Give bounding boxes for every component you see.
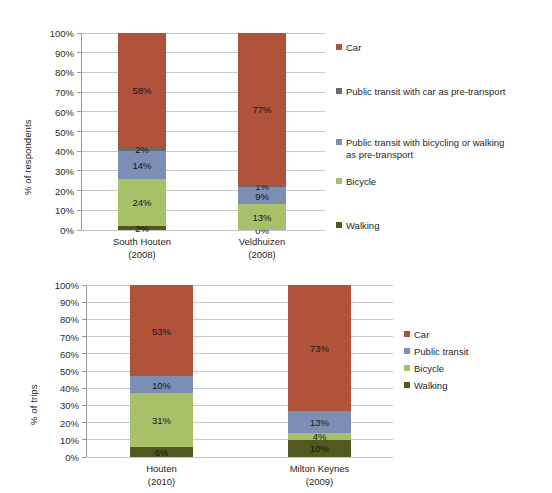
stacked-bar[interactable]: 10%4%13%73% — [288, 285, 351, 457]
bar-value-label: 4% — [288, 432, 351, 442]
bar-value-label: 13% — [238, 213, 286, 223]
stacked-bar[interactable]: 6%31%10%53% — [130, 285, 193, 457]
category-name: South Houten — [88, 236, 196, 249]
chart-trips: % of trips 6%31%10%53%10%4%13%73% 0%10%2… — [0, 250, 552, 493]
category-label: Houten(2010) — [100, 463, 223, 488]
legend-item[interactable]: Walking — [336, 220, 552, 232]
bar-value-label: 53% — [130, 327, 193, 337]
y-tick-label: 70% — [60, 331, 79, 342]
bar-value-label: 9% — [238, 192, 286, 202]
bar-value-label: 10% — [288, 444, 351, 454]
legend-item[interactable]: Car — [336, 42, 552, 54]
legend-swatch-icon — [336, 222, 342, 228]
y-tick-label: 20% — [55, 185, 74, 196]
legend-swatch-icon — [336, 139, 342, 145]
y-axis-line-bottom — [86, 285, 87, 457]
legend-label: Bicycle — [414, 363, 444, 375]
legend-top: CarPublic transit with car as pre-transp… — [336, 36, 552, 231]
y-tick-label: 0% — [60, 225, 74, 236]
bar-value-label: 6% — [130, 448, 193, 458]
legend-item[interactable]: Public transit with car as pre-transport — [336, 86, 552, 98]
y-tick-label: 60% — [55, 106, 74, 117]
y-tick-label: 50% — [55, 126, 74, 137]
legend-label: Public transit with car as pre-transport — [346, 86, 505, 98]
legend-label: Bicycle — [346, 176, 376, 188]
y-tick-label: 60% — [60, 348, 79, 359]
legend-swatch-icon — [336, 88, 342, 94]
legend-label: Walking — [346, 220, 379, 232]
stacked-bar[interactable]: 0%13%9%1%77% — [238, 33, 286, 230]
bar-value-label: 77% — [238, 105, 286, 115]
y-tick-label: 10% — [60, 434, 79, 445]
y-tick-label: 70% — [55, 87, 74, 98]
y-tick-label: 100% — [50, 28, 74, 39]
category-name: Milton Keynes — [258, 463, 381, 476]
legend-item[interactable]: Bicycle — [336, 176, 552, 188]
category-name: Veldhuizen — [208, 236, 316, 249]
bar-value-label: 24% — [118, 198, 166, 208]
legend-item[interactable]: Car — [404, 329, 552, 341]
stacked-bar[interactable]: 2%24%14%2%58% — [118, 33, 166, 230]
y-tick-label: 20% — [60, 417, 79, 428]
y-axis-line-top — [81, 33, 82, 230]
bar-value-label: 10% — [130, 381, 193, 391]
legend-bottom: CarPublic transitBicycleWalking — [404, 329, 552, 399]
y-tick-label: 30% — [55, 165, 74, 176]
legend-item[interactable]: Public transit — [404, 346, 552, 358]
y-tick-label: 10% — [55, 205, 74, 216]
y-tick-label: 30% — [60, 400, 79, 411]
legend-swatch-icon — [336, 44, 342, 50]
legend-label: Car — [414, 329, 429, 341]
legend-item[interactable]: Walking — [404, 380, 552, 392]
legend-item[interactable]: Bicycle — [404, 363, 552, 375]
y-axis-label-top: % of respondents — [22, 119, 33, 195]
y-tick-label: 80% — [55, 67, 74, 78]
y-tick-label: 40% — [55, 146, 74, 157]
category-label: Milton Keynes(2009) — [258, 463, 381, 488]
bar-value-label: 13% — [288, 418, 351, 428]
y-tick-label: 0% — [65, 452, 79, 463]
legend-swatch-icon — [404, 365, 410, 371]
y-tick-label: 40% — [60, 383, 79, 394]
y-tick-label: 90% — [60, 297, 79, 308]
legend-swatch-icon — [404, 331, 410, 337]
legend-swatch-icon — [404, 348, 410, 354]
category-year: (2009) — [258, 476, 381, 489]
legend-swatch-icon — [336, 178, 342, 184]
legend-label: Public transit with bicycling or walking… — [346, 137, 504, 161]
y-tick-label: 100% — [55, 280, 79, 291]
legend-label: Public transit — [414, 346, 468, 358]
category-name: Houten — [100, 463, 223, 476]
legend-label: Car — [346, 42, 361, 54]
category-year: (2010) — [100, 476, 223, 489]
bar-value-label: 14% — [118, 161, 166, 171]
plot-area-bottom: 6%31%10%53%10%4%13%73% — [86, 285, 393, 457]
chart-respondents: % of respondents 2%24%14%2%58%0%13%9%1%7… — [0, 0, 552, 250]
plot-area-top: 2%24%14%2%58%0%13%9%1%77% — [81, 33, 325, 230]
bar-value-label: 58% — [118, 86, 166, 96]
legend-swatch-icon — [404, 382, 410, 388]
bar-value-label: 31% — [130, 416, 193, 426]
y-tick-label: 80% — [60, 314, 79, 325]
legend-item[interactable]: Public transit with bicycling or walking… — [336, 137, 552, 161]
bar-value-label: 73% — [288, 344, 351, 354]
y-tick-label: 50% — [60, 366, 79, 377]
y-tick-label: 90% — [55, 47, 74, 58]
y-axis-label-bottom: % of trips — [28, 384, 39, 425]
legend-label: Walking — [414, 380, 447, 392]
